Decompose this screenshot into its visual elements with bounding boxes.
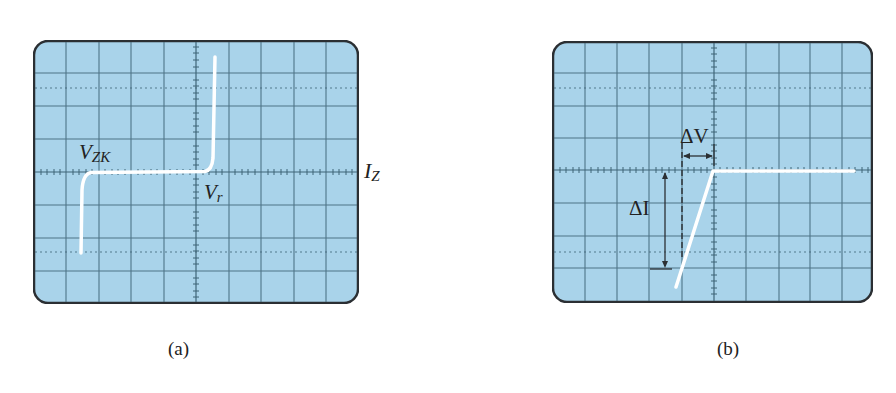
oscilloscope-screen-a — [33, 40, 359, 304]
label-delta-i: ΔI — [629, 196, 650, 221]
label-vr-sub: r — [217, 189, 223, 205]
label-iz-sub: Z — [371, 168, 379, 184]
label-vzk: VZK — [79, 140, 110, 168]
caption-b: (b) — [717, 338, 739, 360]
label-iz: IZ — [364, 158, 380, 187]
caption-a: (a) — [168, 338, 189, 360]
label-vzk-sub: ZK — [92, 149, 110, 165]
scope-grid-b — [552, 41, 873, 303]
label-vr: Vr — [204, 180, 223, 208]
scope-grid-a — [33, 40, 359, 304]
oscilloscope-screen-b — [552, 41, 873, 303]
label-delta-v: ΔV — [680, 124, 709, 149]
